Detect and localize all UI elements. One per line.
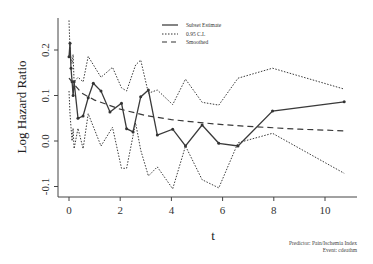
- data-point-marker: [201, 124, 204, 127]
- x-tick-label: 4: [169, 204, 175, 216]
- data-point-marker: [70, 67, 73, 70]
- x-axis-title: t: [211, 228, 215, 243]
- series-smoothed: [69, 78, 344, 131]
- data-point-marker: [68, 55, 71, 58]
- data-point-marker: [76, 117, 79, 120]
- x-tick-label: 6: [220, 204, 226, 216]
- x-tick-label: 0: [66, 204, 72, 216]
- legend-item-smoothed: Smoothed: [186, 39, 209, 45]
- series-0-95-c-i-upper: [69, 20, 344, 105]
- x-tick-label: 8: [271, 204, 277, 216]
- data-point-marker: [271, 109, 274, 112]
- y-tick-label: 0.2: [39, 43, 51, 57]
- data-point-marker: [72, 94, 75, 97]
- data-point-marker: [217, 142, 220, 145]
- data-point-marker: [82, 114, 85, 117]
- legend-item-subset-estimate: Subset Estimate: [186, 22, 222, 28]
- x-tick-label: 10: [320, 204, 332, 216]
- y-tick-label: -0.1: [39, 178, 51, 195]
- data-point-marker: [100, 89, 103, 92]
- plot-area: [68, 20, 346, 188]
- data-point-marker: [92, 82, 95, 85]
- hazard-ratio-chart: -0.10.00.10.2 0246810 t Log Hazard Ratio…: [0, 0, 373, 264]
- x-tick-label: 2: [117, 204, 123, 216]
- x-ticks: 0246810: [66, 197, 331, 216]
- y-tick-label: 0.0: [39, 134, 51, 148]
- legend-item-ci: 0.95 C.I.: [186, 31, 206, 37]
- data-point-marker: [120, 102, 123, 105]
- data-point-marker: [156, 134, 159, 137]
- data-point-marker: [139, 95, 142, 98]
- data-point-marker: [87, 96, 90, 99]
- y-axis-title: Log Hazard Ratio: [14, 60, 29, 153]
- data-point-marker: [108, 110, 111, 113]
- y-ticks: -0.10.00.10.2: [39, 43, 58, 195]
- footnote-predictor: Predictor: Pain/Ischemia Index: [289, 240, 357, 246]
- legend: Subset Estimate 0.95 C.I. Smoothed: [162, 22, 222, 45]
- data-point-marker: [171, 128, 174, 131]
- data-point-marker: [343, 100, 346, 103]
- data-point-marker: [125, 127, 128, 130]
- y-tick-label: 0.1: [39, 89, 51, 103]
- footnote-event: Event: cdeathm: [323, 247, 358, 253]
